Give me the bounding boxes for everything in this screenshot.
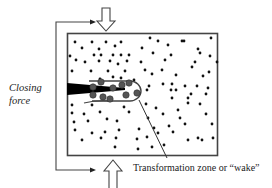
small-particle [99,111,102,114]
small-particle [98,60,101,63]
small-particle [207,87,210,90]
small-particle [90,70,93,73]
small-particle [197,137,200,140]
small-particle [208,71,211,74]
small-particle [120,54,123,57]
small-particle [211,123,214,126]
bracket-arrowhead-bottom-icon [90,168,96,173]
small-particle [162,113,165,116]
small-particle [123,106,126,109]
wake-label: Transformation zone or “wake” [133,162,260,173]
large-particle [107,96,113,102]
small-particle [151,146,154,149]
small-particle [210,37,213,40]
large-particle [100,94,106,100]
small-particle [116,120,119,123]
small-particle [199,103,202,106]
small-particle [187,139,190,142]
small-particle [145,103,148,106]
small-particle [126,60,129,63]
small-particle [205,93,208,96]
small-particle [144,69,147,72]
small-particle [155,107,158,110]
small-particle [128,111,131,114]
small-particle [98,48,101,51]
closing-force-label: Closing force [9,81,53,107]
small-particle [120,77,123,80]
small-particle [124,70,127,73]
small-particle [163,144,166,147]
small-particle [194,61,197,64]
small-particle [216,61,219,64]
small-particle [106,118,109,121]
large-particle [126,80,132,86]
small-particle [100,54,103,57]
large-particle [98,79,104,85]
small-particle [148,85,151,88]
small-particle [112,54,115,57]
small-particle [197,48,200,51]
small-particle [114,45,117,48]
small-particle [74,41,77,44]
small-particle [117,63,120,66]
small-particle [114,146,117,149]
small-particle [146,89,149,92]
small-particle [71,104,74,107]
small-particle [187,97,190,100]
small-particle [146,136,149,139]
closing-force-line1: Closing [9,81,53,94]
small-particle [84,61,87,64]
small-particle [109,60,112,63]
top-arrow-icon [97,8,115,31]
small-particle [168,125,171,128]
small-particle [118,129,121,132]
small-particle [199,52,202,55]
small-particle [87,120,90,123]
small-particle [170,89,173,92]
small-particle [209,55,212,58]
small-particle [162,83,165,86]
small-particle [136,138,139,141]
small-particle [81,139,84,142]
small-particle [175,89,178,92]
small-particle [115,137,118,140]
bottom-arrow-icon [104,160,122,188]
closing-force-line2: force [9,94,53,107]
small-particle [128,54,131,57]
small-particle [140,61,143,64]
small-particle [184,123,187,126]
small-particle [161,69,164,72]
large-particle [123,92,129,98]
small-particle [170,54,173,57]
small-particle [107,70,110,73]
small-particle [71,112,74,115]
small-particle [171,97,174,100]
small-particle [191,66,194,69]
small-particle [202,75,205,78]
small-particle [187,102,190,105]
small-particle [196,85,199,88]
small-particle [104,131,107,134]
small-particle [183,40,186,43]
small-particle [141,47,144,50]
small-particle [91,132,94,135]
small-particle [83,113,86,116]
small-particle [171,83,174,86]
large-particle [90,92,96,98]
small-particle [157,132,160,135]
small-particle [190,93,193,96]
small-particle [151,73,154,76]
small-particle [152,52,155,55]
small-particle [149,37,152,40]
small-particle [91,104,94,107]
large-particle [90,84,96,90]
small-particle [172,131,175,134]
small-particle [205,113,208,116]
small-particle [138,128,141,131]
large-particle [119,82,125,88]
small-particle [179,117,182,120]
small-particle [73,121,76,124]
small-particle [137,148,140,151]
small-particle [157,40,160,43]
small-particle [100,137,103,140]
